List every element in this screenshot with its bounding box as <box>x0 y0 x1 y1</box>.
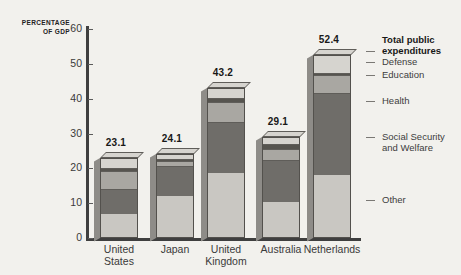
bar-segment-other[interactable] <box>262 202 300 238</box>
bar-segment-social-security-and-welfare[interactable] <box>156 166 194 195</box>
bar-value-label-australia: 29.1 <box>256 116 300 127</box>
bar-segment-other[interactable] <box>100 214 138 238</box>
bar-segment-defense[interactable] <box>100 158 138 168</box>
bar-value-label-united-states: 23.1 <box>94 137 138 148</box>
x-label-line2: Kingdom <box>205 255 246 267</box>
legend-item-other: Other <box>382 195 406 206</box>
bar-segment-defense[interactable] <box>313 55 351 72</box>
bar-united-kingdom[interactable] <box>207 88 245 238</box>
x-label-line2: States <box>104 255 134 267</box>
legend-dash-defense <box>366 62 375 63</box>
x-axis-line <box>86 238 361 241</box>
bar-segment-other[interactable] <box>313 175 351 238</box>
bar-japan[interactable] <box>156 154 194 238</box>
bar-segment-health[interactable] <box>313 75 351 93</box>
y-tick-label-50: 50 <box>60 58 82 68</box>
bar-segment-health[interactable] <box>100 171 138 189</box>
y-tick-label-60: 60 <box>60 23 82 33</box>
legend-title-line2: expenditures <box>382 45 441 56</box>
bar-segment-education[interactable] <box>313 73 351 75</box>
bar-segment-other[interactable] <box>207 173 245 238</box>
bar-segment-education[interactable] <box>156 159 194 161</box>
y-tick-60 <box>88 29 93 30</box>
bar-netherlands[interactable] <box>313 55 351 238</box>
bar-australia[interactable] <box>262 137 300 238</box>
x-label-line1: United <box>104 243 134 255</box>
legend-title-line1: Total public <box>382 34 435 45</box>
bar-value-label-japan: 24.1 <box>150 133 194 144</box>
bar-segment-health[interactable] <box>156 161 194 166</box>
legend-item-health: Health <box>382 96 409 107</box>
bar-segment-education[interactable] <box>207 98 245 102</box>
y-tick-label-30: 30 <box>60 128 82 138</box>
bar-segment-social-security-and-welfare[interactable] <box>207 122 245 174</box>
legend-item-education: Education <box>382 70 424 81</box>
x-label-line1: Netherlands <box>304 243 361 255</box>
y-tick-label-10: 10 <box>60 197 82 207</box>
bar-segment-other[interactable] <box>156 196 194 238</box>
y-tick-label-40: 40 <box>60 93 82 103</box>
legend-dash-other <box>366 200 375 201</box>
bar-segment-defense[interactable] <box>156 154 194 159</box>
bar-united-states[interactable] <box>100 158 138 238</box>
y-tick-10 <box>88 203 93 204</box>
x-label-line1: Japan <box>161 243 190 255</box>
bar-segment-defense[interactable] <box>207 88 245 98</box>
bar-segment-social-security-and-welfare[interactable] <box>262 160 300 202</box>
y-tick-label-0: 0 <box>60 232 82 242</box>
bar-segment-education[interactable] <box>100 168 138 171</box>
legend-dash-social <box>366 137 375 138</box>
bar-segment-health[interactable] <box>262 149 300 160</box>
legend-dash-total <box>366 51 375 52</box>
y-tick-30 <box>88 134 93 135</box>
legend-dash-education <box>366 75 375 76</box>
legend-dash-health <box>366 101 375 102</box>
legend-item-defense: Defense <box>382 57 417 68</box>
bar-segment-defense[interactable] <box>262 137 300 144</box>
y-tick-20 <box>88 168 93 169</box>
y-tick-40 <box>88 99 93 100</box>
bar-segment-social-security-and-welfare[interactable] <box>313 93 351 175</box>
bar-value-label-united-kingdom: 43.2 <box>201 67 245 78</box>
legend-title: Total public expenditures <box>382 35 460 56</box>
bar-segment-health[interactable] <box>207 102 245 122</box>
legend-social-line1: Social Security <box>382 131 445 142</box>
bar-segment-education[interactable] <box>262 144 300 150</box>
bar-value-label-netherlands: 52.4 <box>307 34 351 45</box>
chart-figure: PERCENTAGE OF GDP 0102030405060 23.124.1… <box>0 0 461 275</box>
legend-item-social: Social Security and Welfare <box>382 132 461 153</box>
y-tick-label-20: 20 <box>60 162 82 172</box>
x-label-netherlands: Netherlands <box>294 244 370 256</box>
legend-social-line2: and Welfare <box>382 142 433 153</box>
y-tick-50 <box>88 64 93 65</box>
y-tick-0 <box>88 238 93 239</box>
bar-segment-social-security-and-welfare[interactable] <box>100 189 138 213</box>
x-label-line1: United <box>211 243 241 255</box>
